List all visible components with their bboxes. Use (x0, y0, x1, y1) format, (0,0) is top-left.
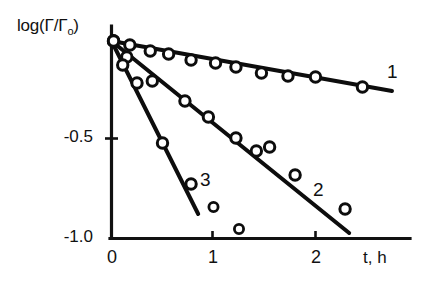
y-tick-label-0: -0.5 (41, 128, 93, 145)
y-axis-label: log(Γ/Γo) (17, 17, 79, 37)
series-3 (108, 36, 198, 214)
series-3-data-point (186, 179, 196, 189)
series-2-data-point (180, 96, 190, 106)
series-3-data-point (157, 138, 167, 148)
curve-label-2: 2 (313, 180, 324, 199)
series-2-data-point (203, 112, 213, 122)
unassigned-data-point (234, 224, 243, 233)
axes-group (105, 26, 410, 239)
series-3-data-point (132, 78, 142, 88)
series-1-data-point (256, 68, 266, 78)
series-2-data-point (231, 133, 241, 143)
y-axis-label-close: ) (73, 16, 78, 35)
series-2-data-point (251, 146, 261, 156)
curve-label-3: 3 (200, 170, 211, 189)
series-1-data-point (186, 55, 196, 65)
series-1-data-point (310, 72, 320, 82)
series-group (108, 36, 392, 234)
series-2-data-point (147, 76, 157, 86)
series-3-data-point (118, 60, 128, 70)
series-1-data-point (357, 82, 367, 92)
x-axis-label: t, h (363, 249, 387, 266)
series-1-data-point (231, 62, 241, 72)
x-tick-label-1: 1 (201, 248, 225, 266)
series-1-data-point (283, 71, 293, 81)
series-2-data-point (340, 204, 350, 214)
series-2 (108, 36, 350, 233)
series-2-data-point (290, 170, 300, 180)
chart-figure: log(Γ/Γo) -0.5 -1.0 0 1 2 t, h 1 2 3 (0, 0, 429, 286)
series-1-data-point (145, 46, 155, 56)
curve-label-1: 1 (387, 62, 398, 81)
y-tick-label-1: -1.0 (41, 228, 93, 245)
series-1-data-point (210, 58, 220, 68)
series-1-data-point (163, 49, 173, 59)
unassigned-points-group (209, 202, 244, 233)
unassigned-data-point (209, 202, 218, 211)
y-axis-label-main: log(Γ/Γ (17, 16, 67, 35)
series-2-data-point (264, 142, 274, 152)
series-1-data-point (125, 40, 135, 50)
x-tick-label-2: 2 (304, 248, 328, 266)
series-3-data-point (108, 36, 118, 46)
x-tick-label-0: 0 (100, 248, 124, 266)
